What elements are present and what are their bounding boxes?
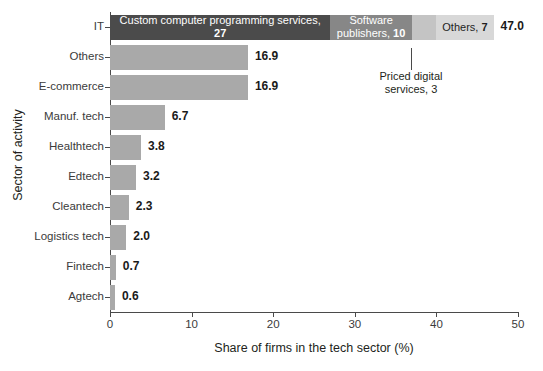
x-tick-0 [110, 312, 111, 317]
callout-line-2: services, 3 [380, 83, 443, 96]
category-label-healthtech: Healthtech [4, 140, 104, 152]
y-tick-manuf-tech [105, 117, 110, 118]
category-label-it: IT [4, 20, 104, 32]
x-tick-label-20: 20 [267, 318, 280, 330]
bar-it[interactable]: Custom computer programming services, 27… [110, 15, 494, 40]
value-label-agtech: 0.6 [122, 289, 139, 303]
bar-agtech[interactable] [110, 285, 115, 310]
y-tick-edtech [105, 177, 110, 178]
priced-digital-services-callout: Priced digital services, 3 [380, 70, 443, 96]
x-tick-label-10: 10 [185, 318, 198, 330]
category-label-cleantech: Cleantech [4, 200, 104, 212]
x-tick-10 [192, 312, 193, 317]
segment-label-others: Others, 7 [436, 21, 493, 34]
category-label-manuf-tech: Manuf. tech [4, 110, 104, 122]
bar-logistics-tech[interactable] [110, 225, 126, 250]
segment-priced-digital-services[interactable] [412, 15, 436, 40]
x-tick-30 [355, 312, 356, 317]
x-tick-50 [518, 312, 519, 317]
callout-leader-line [411, 48, 412, 70]
bar-cleantech[interactable] [110, 195, 129, 220]
segment-label-custom-computer-programming-services: Custom computer programming services, 27 [110, 14, 330, 40]
y-tick-others [105, 57, 110, 58]
y-tick-fintech [105, 267, 110, 268]
category-label-e-commerce: E-commerce [4, 80, 104, 92]
segment-software-publishers[interactable]: Software publishers, 10 [330, 15, 412, 40]
callout-line-1: Priced digital [380, 70, 443, 83]
y-tick-logistics-tech [105, 237, 110, 238]
bar-e-commerce[interactable] [110, 75, 248, 100]
value-label-cleantech: 2.3 [136, 199, 153, 213]
bar-chart: Sector of activity ITCustom computer pro… [0, 0, 543, 371]
value-label-edtech: 3.2 [143, 169, 160, 183]
x-axis-line [110, 312, 518, 313]
x-tick-20 [273, 312, 274, 317]
value-label-e-commerce: 16.9 [255, 79, 278, 93]
category-label-edtech: Edtech [4, 170, 104, 182]
x-tick-label-40: 40 [430, 318, 443, 330]
x-axis-title: Share of firms in the tech sector (%) [110, 341, 518, 355]
x-tick-label-30: 30 [348, 318, 361, 330]
value-label-logistics-tech: 2.0 [133, 229, 150, 243]
y-tick-it [105, 27, 110, 28]
bar-edtech[interactable] [110, 165, 136, 190]
y-tick-healthtech [105, 147, 110, 148]
category-label-agtech: Agtech [4, 290, 104, 302]
segment-others[interactable]: Others, 7 [436, 15, 493, 40]
y-tick-cleantech [105, 207, 110, 208]
bar-others[interactable] [110, 45, 248, 70]
segment-custom-computer-programming-services[interactable]: Custom computer programming services, 27 [110, 15, 330, 40]
bar-fintech[interactable] [110, 255, 116, 280]
value-label-manuf-tech: 6.7 [172, 109, 189, 123]
value-label-healthtech: 3.8 [148, 139, 165, 153]
category-label-logistics-tech: Logistics tech [4, 230, 104, 242]
value-label-it: 47.0 [501, 19, 524, 33]
segment-label-software-publishers: Software publishers, 10 [330, 14, 412, 40]
y-tick-e-commerce [105, 87, 110, 88]
value-label-others: 16.9 [255, 49, 278, 63]
x-tick-40 [436, 312, 437, 317]
bar-manuf-tech[interactable] [110, 105, 165, 130]
category-label-others: Others [4, 50, 104, 62]
bar-healthtech[interactable] [110, 135, 141, 160]
category-label-fintech: Fintech [4, 260, 104, 272]
value-label-fintech: 0.7 [123, 259, 140, 273]
x-tick-label-50: 50 [512, 318, 525, 330]
y-tick-agtech [105, 297, 110, 298]
x-tick-label-0: 0 [107, 318, 113, 330]
